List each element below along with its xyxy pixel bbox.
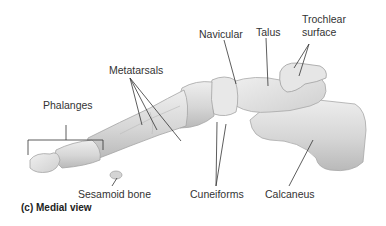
figure-caption: (c) Medial view [21,202,92,213]
label-talus: Talus [256,27,281,38]
sesamoid-bone [110,171,122,179]
foot-medial-view-diagram: Metatarsals Phalanges Navicular Talus Tr… [0,0,386,226]
label-cuneiforms: Cuneiforms [190,189,244,200]
label-trochlear-line2: surface [302,27,336,38]
navicular-bone [210,77,237,116]
label-metatarsals: Metatarsals [109,65,163,76]
label-trochlear-line1: Trochlear [302,14,346,25]
label-sesamoid-bone: Sesamoid bone [78,189,151,200]
phalanges-bones [55,140,100,168]
label-phalanges: Phalanges [43,100,93,111]
label-calcaneus: Calcaneus [265,189,315,200]
label-navicular: Navicular [199,29,243,40]
